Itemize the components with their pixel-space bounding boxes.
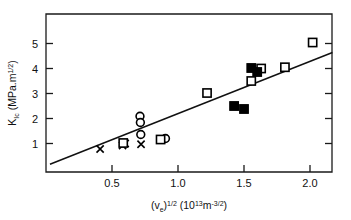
data-point-open-square <box>247 77 255 85</box>
y-axis-ticks <box>46 44 332 144</box>
chart-svg: 5 4 3 2 1 0.5 1.0 1.5 2.0 KIc (MPa.m1/2)… <box>0 0 351 220</box>
data-point-open-circle <box>137 131 145 139</box>
x-axis-label-unit-open: (10 <box>177 199 195 211</box>
x-ticklabel-1.5: 1.5 <box>236 177 251 189</box>
x-ticklabel-0.5: 0.5 <box>104 177 119 189</box>
y-axis-label: KIc (MPa.m1/2) <box>6 60 20 125</box>
x-ticklabel-2.0: 2.0 <box>302 177 317 189</box>
figure-container: 5 4 3 2 1 0.5 1.0 1.5 2.0 KIc (MPa.m1/2)… <box>0 0 351 220</box>
svg-text:KIc (MPa.m1/2): KIc (MPa.m1/2) <box>6 60 20 125</box>
data-point-filled-square <box>253 68 262 77</box>
data-point-cross <box>137 141 144 148</box>
data-point-filled-square <box>230 102 239 111</box>
y-ticklabel-3: 3 <box>32 88 38 100</box>
y-tick-labels: 5 4 3 2 1 <box>32 38 38 150</box>
data-point-open-square <box>156 135 164 143</box>
trend-line-group <box>50 53 332 165</box>
x-axis-label-unit-exp: 13 <box>195 200 203 207</box>
x-axis-label-exp: 1/2 <box>167 200 177 207</box>
y-axis-label-unit-exp: 1/2 <box>7 64 14 74</box>
trend-line <box>50 53 332 165</box>
x-axis-label-unit-close: ) <box>224 199 228 211</box>
data-point-open-square <box>119 139 127 147</box>
data-point-open-square <box>309 38 317 46</box>
x-axis-ticks <box>112 165 310 172</box>
x-axis-label-unit-m-exp: -3/2 <box>211 200 223 207</box>
y-ticklabel-4: 4 <box>32 63 38 75</box>
y-ticklabel-1: 1 <box>32 138 38 150</box>
y-axis-label-unit-open: (MPa.m <box>6 73 18 113</box>
y-axis-label-k: K <box>6 119 18 126</box>
y-ticklabel-5: 5 <box>32 38 38 50</box>
data-markers-group <box>97 38 317 152</box>
x-ticklabel-1.0: 1.0 <box>170 177 185 189</box>
y-axis-label-unit-close: ) <box>6 60 18 64</box>
data-point-filled-square <box>240 105 249 114</box>
data-point-open-square <box>281 63 289 71</box>
data-point-open-circle <box>136 119 144 127</box>
svg-text:(ve)1/2 (1013m-3/2): (ve)1/2 (1013m-3/2) <box>151 199 227 213</box>
data-point-cross <box>97 145 104 152</box>
x-axis-label: (ve)1/2 (1013m-3/2) <box>151 199 227 213</box>
x-axis-label-unit-m: m <box>203 199 212 211</box>
x-tick-labels: 0.5 1.0 1.5 2.0 <box>104 177 317 189</box>
y-ticklabel-2: 2 <box>32 113 38 125</box>
data-point-open-square <box>203 89 211 97</box>
